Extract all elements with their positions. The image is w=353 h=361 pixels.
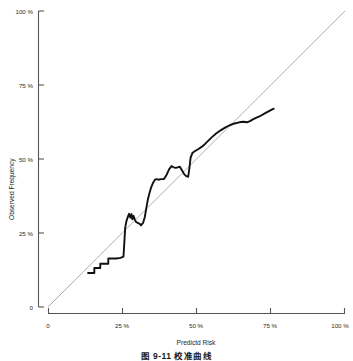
y-tick-label-75: 75 % [19,82,34,89]
y-axis-title: Observed Frequency [8,158,16,220]
x-tick-label-0: 0 [46,322,50,329]
x-tick-label-50: 50 % [189,322,204,329]
y-tick-label-100: 100 % [15,8,33,15]
y-tick-label-50: 50 % [19,156,34,163]
x-tick-label-75: 75 % [263,322,278,329]
x-tick-label-100: 100 % [331,322,349,329]
y-tick-label-25: 25 % [19,230,34,237]
y-tick-label-0: 0 [30,304,34,311]
x-axis-title: Predictd Risk [177,339,217,346]
figure-caption: 图 9-11 校准曲线 [0,349,353,361]
x-tick-label-25: 25 % [115,322,130,329]
